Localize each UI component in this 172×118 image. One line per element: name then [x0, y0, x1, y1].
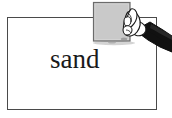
- screenshot-scene: sand: [0, 0, 172, 118]
- hand-card-svg: [0, 0, 172, 118]
- hand-and-card-illustration: [0, 0, 172, 118]
